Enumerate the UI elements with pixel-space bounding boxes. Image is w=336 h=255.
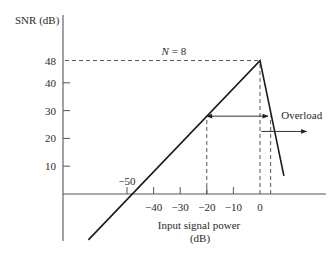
x-tick-label: 0 (257, 201, 263, 213)
x-tick-label: −40 (145, 201, 163, 213)
x-axis-title-unit: (dB) (190, 232, 211, 245)
y-axis-title: SNR (dB) (15, 14, 60, 27)
x-tick-label: −30 (172, 201, 190, 213)
snr-curve (88, 61, 284, 240)
y-tick-label: 40 (45, 77, 57, 89)
x-axis-title: Input signal power (158, 219, 241, 231)
snr-chart: SNR (dB) Input signal power (dB) 1020304… (0, 0, 336, 255)
x-tick-label: −10 (225, 201, 243, 213)
y-tick-label: 48 (45, 55, 57, 67)
y-tick-label: 20 (45, 132, 57, 144)
y-tick-label: 30 (45, 105, 57, 117)
y-tick-label: 10 (45, 160, 57, 172)
n-bits-annotation: N = 8 (161, 45, 187, 57)
overload-annotation: Overload (281, 109, 322, 121)
x-tick-label: −20 (198, 201, 216, 213)
x-tick-label: −50 (118, 175, 136, 187)
